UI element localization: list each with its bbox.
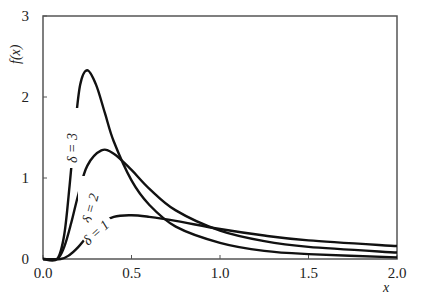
y-tick-label: 1 bbox=[22, 170, 30, 186]
x-tick-label: 2.0 bbox=[388, 265, 407, 281]
y-tick-label: 0 bbox=[22, 251, 30, 267]
x-tick-label: 1.0 bbox=[211, 265, 230, 281]
x-tick-label: 0.5 bbox=[122, 265, 141, 281]
y-tick-label: 2 bbox=[22, 89, 30, 105]
chart: 0.00.51.01.52.00123 x f(x) δ = 3 δ = 2 δ… bbox=[0, 0, 424, 301]
series-annotations: δ = 3 δ = 2 δ = 1 bbox=[64, 108, 121, 254]
x-tick-label: 0.0 bbox=[34, 265, 53, 281]
x-tick-label: 1.5 bbox=[299, 265, 318, 281]
annotation-delta-3: δ = 3 bbox=[65, 133, 80, 163]
y-tick-label: 3 bbox=[22, 8, 30, 24]
x-axis-label: x bbox=[382, 280, 390, 295]
y-axis-label: f(x) bbox=[8, 44, 24, 64]
